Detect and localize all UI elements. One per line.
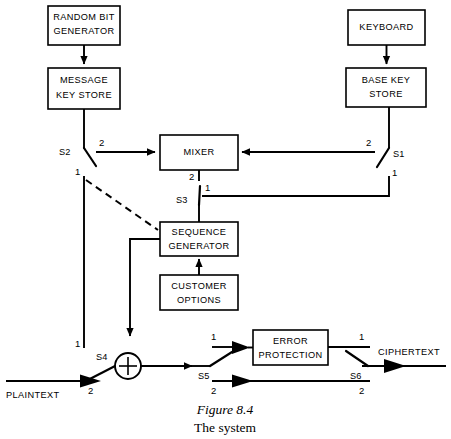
customer-options-label-line1: CUSTOMER xyxy=(171,281,227,291)
base-key-store-label-line1: BASE KEY xyxy=(362,75,411,85)
s1-pos1-label: 1 xyxy=(392,167,397,178)
random-bit-generator-label-line1: RANDOM BIT xyxy=(53,12,115,22)
error-protection-input-arrowhead xyxy=(232,341,250,354)
s5-pos2-label: 2 xyxy=(211,385,216,396)
random-bit-generator-label-line2: GENERATOR xyxy=(54,26,115,36)
sequence-generator-label-line1: SEQUENCE xyxy=(172,227,227,237)
message-key-store-box xyxy=(48,68,120,109)
s2-name-label: S2 xyxy=(59,147,70,157)
s3-name-label: S3 xyxy=(176,195,187,205)
s3-pos2-label: 2 xyxy=(189,171,194,182)
s5-blade[interactable] xyxy=(210,352,232,366)
s2-blade[interactable] xyxy=(84,148,96,166)
error-protection-label-line1: ERROR xyxy=(273,336,308,346)
message-key-store-label-line1: MESSAGE xyxy=(60,75,108,85)
wire-sequence-generator-to-xor xyxy=(130,239,160,336)
error-protection-label-line2: PROTECTION xyxy=(258,350,322,360)
s2-pos2-label: 2 xyxy=(99,137,104,148)
s3-pos1-label: 1 xyxy=(205,182,210,193)
customer-options-label-line2: OPTIONS xyxy=(177,295,221,305)
figure-caption-title: The system xyxy=(194,420,256,435)
s1-name-label: S1 xyxy=(393,149,404,159)
base-key-store-box xyxy=(346,68,426,107)
s4-blade[interactable] xyxy=(84,365,117,382)
figure-caption-number: Figure 8.4 xyxy=(196,402,254,417)
s6-blade[interactable] xyxy=(346,351,368,366)
dashed-control-line-s2-to-sequence-generator xyxy=(86,180,158,230)
figure-8-4-diagram: RANDOM BIT GENERATOR MESSAGE KEY STORE S… xyxy=(0,0,451,439)
system-block-diagram: RANDOM BIT GENERATOR MESSAGE KEY STORE S… xyxy=(0,0,451,439)
s2-pos1-label: 1 xyxy=(75,166,80,177)
message-key-store-label-line2: KEY STORE xyxy=(56,90,112,100)
plaintext-label: PLAINTEXT xyxy=(6,390,60,400)
s3-blade[interactable] xyxy=(199,186,200,205)
sequence-generator-label-line2: GENERATOR xyxy=(169,241,230,251)
ciphertext-arrowhead xyxy=(384,359,406,373)
s6-name-label: S6 xyxy=(350,371,361,381)
wire-s1-pos1-to-s3-pos1 xyxy=(202,176,389,196)
ciphertext-label: CIPHERTEXT xyxy=(378,347,440,357)
s5-pos1-label: 1 xyxy=(211,331,216,342)
keyboard-label: KEYBOARD xyxy=(359,22,413,32)
s1-pos2-label: 2 xyxy=(366,137,371,148)
s6-pos1-label: 1 xyxy=(359,331,364,342)
s1-blade[interactable] xyxy=(377,148,389,167)
s5-name-label: S5 xyxy=(198,371,209,381)
s6-pos2-label: 2 xyxy=(359,385,364,396)
s4-pos2-label: 2 xyxy=(88,385,93,396)
mixer-label: MIXER xyxy=(183,147,214,157)
base-key-store-label-line2: STORE xyxy=(369,89,402,99)
bypass-arrowhead xyxy=(232,375,253,388)
s4-name-label: S4 xyxy=(96,352,107,362)
s4-pos1-label: 1 xyxy=(75,338,80,349)
